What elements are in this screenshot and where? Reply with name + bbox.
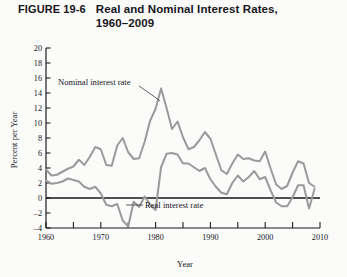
y-tick-label: 0 (38, 194, 42, 203)
y-axis-tick-labels: 20181614121086420–2–4 (33, 44, 42, 233)
x-tick-label: 2010 (312, 233, 328, 242)
y-tick-label: 18 (34, 59, 42, 68)
x-axis-tick-labels: 196019701980199020002010 (38, 233, 328, 242)
y-tick-label: 6 (38, 149, 42, 158)
x-tick-label: 1990 (202, 233, 218, 242)
series-label-nominal: Nominal interest rate (58, 77, 131, 87)
y-tick-label: 10 (34, 119, 42, 128)
series-label-real: Real interest rate (145, 200, 203, 210)
x-axis-ticks (46, 222, 320, 228)
nominal-label-leader-line (139, 86, 160, 101)
x-tick-label: 1960 (38, 233, 54, 242)
y-tick-label: 12 (34, 104, 42, 113)
chart-plot-area: Percent per Year 20181614121086420–2–4 1… (0, 0, 347, 277)
y-tick-label: –4 (33, 224, 42, 233)
x-tick-label: 1970 (93, 233, 109, 242)
x-axis-title: Year (177, 259, 193, 269)
y-tick-label: 16 (34, 74, 42, 83)
x-tick-label: 1980 (147, 233, 163, 242)
line-chart: Percent per Year 20181614121086420–2–4 1… (0, 0, 347, 277)
y-tick-label: –2 (33, 209, 42, 218)
series-line-nominal (46, 89, 315, 190)
y-tick-label: 20 (34, 44, 42, 53)
y-axis-title: Percent per Year (9, 112, 19, 169)
y-tick-label: 14 (34, 89, 42, 98)
y-axis-ticks (46, 48, 51, 228)
y-tick-label: 2 (38, 179, 42, 188)
figure-container: FIGURE 19-6 Real and Nominal Interest Ra… (0, 0, 347, 277)
series-line-real (46, 153, 315, 227)
y-tick-label: 8 (38, 134, 42, 143)
x-tick-label: 2000 (257, 233, 273, 242)
y-tick-label: 4 (38, 164, 42, 173)
